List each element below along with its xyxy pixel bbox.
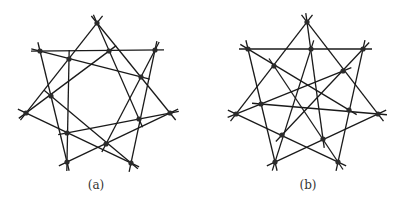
panel-a-node-BL — [64, 159, 69, 164]
panel-a-node-L — [23, 110, 28, 115]
panel-b-node-L — [233, 111, 238, 116]
panel-b-line-11 — [228, 110, 346, 166]
panel-a-node-p1 — [66, 56, 71, 61]
panel-b-node-b — [271, 63, 276, 68]
panel-a-node-p3 — [138, 74, 143, 79]
caption-b: (b) — [288, 178, 328, 192]
panel-b-diagram — [228, 13, 387, 171]
panel-a-node-p4 — [48, 93, 53, 98]
caption-a: (a) — [76, 178, 116, 192]
panel-b-line-14 — [267, 110, 386, 166]
panel-a-line-9 — [44, 90, 138, 169]
panel-b-node-R — [375, 111, 380, 116]
panel-a-node-p5 — [136, 116, 141, 121]
line-arrangement-figure — [0, 0, 404, 209]
panel-b-node-a — [308, 46, 313, 51]
panel-b-node-c — [340, 68, 345, 73]
panel-a-node-p2 — [106, 48, 111, 53]
panel-b-node-f — [279, 132, 284, 137]
panel-a-line-12 — [102, 42, 159, 152]
panel-b-node-e — [346, 107, 351, 112]
panel-a-diagram — [18, 15, 179, 172]
panel-a-node-BR — [128, 160, 133, 165]
panel-b-node-T — [304, 19, 309, 24]
panel-a-node-p6 — [64, 130, 69, 135]
panel-b-node-UR — [360, 46, 365, 51]
panel-b-node-g — [320, 136, 325, 141]
panel-a-node-p7 — [103, 141, 108, 146]
panel-a-node-R — [167, 110, 172, 115]
panel-b-node-UL — [245, 46, 250, 51]
panel-a-line-5 — [31, 49, 149, 79]
panel-a-node-T — [94, 20, 99, 25]
panel-a-line-14 — [58, 111, 179, 134]
panel-b-node-BL — [272, 159, 277, 164]
panel-b-node-d — [258, 101, 263, 106]
panel-a-line-10 — [18, 109, 139, 167]
panel-a-node-UL — [37, 48, 42, 53]
panel-a-line-1 — [31, 50, 164, 51]
panel-a-node-UR — [152, 47, 157, 52]
panel-b-node-BR — [335, 159, 340, 164]
